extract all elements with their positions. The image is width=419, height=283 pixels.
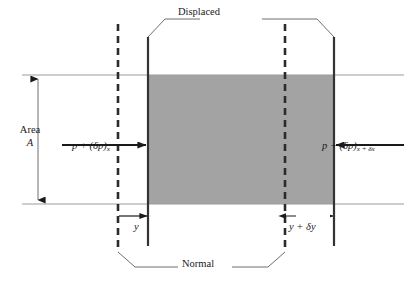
area-label: Area [12, 124, 48, 135]
displaced-bracket-right [260, 19, 334, 37]
area-symbol-label: A [12, 137, 48, 148]
pressure-left-base: p + (δp) [72, 140, 107, 151]
normal-bracket-right [232, 252, 285, 267]
pressure-right-label: p + (δp)x + δx [322, 140, 375, 153]
normal-bracket-left [118, 252, 178, 267]
pressure-element-diagram: Displaced Normal Area A p + (δp)x p + (δ… [0, 0, 419, 283]
pressure-left-label: p + (δp)x [72, 140, 110, 153]
displaced-bracket-left [148, 19, 205, 37]
normal-label: Normal [182, 258, 214, 269]
pressure-left-subscript: x [107, 145, 110, 153]
pressure-right-subscript: x + δx [357, 145, 375, 153]
depth-y-dy-label: y + δy [289, 221, 316, 232]
displaced-column-fill [148, 75, 334, 204]
depth-y-label: y [134, 221, 139, 232]
displaced-label: Displaced [178, 6, 220, 17]
pressure-right-base: p + (δp) [322, 140, 357, 151]
